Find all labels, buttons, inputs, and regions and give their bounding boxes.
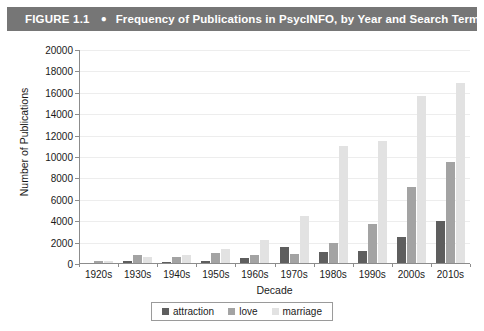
bar-group-1980s: [314, 50, 353, 264]
x-axis-title: Decade: [79, 284, 470, 296]
bar-attraction-1970s: [280, 247, 289, 264]
x-tick-mark: [235, 264, 236, 267]
legend-label: love: [239, 306, 257, 317]
x-tick-mark: [157, 264, 158, 267]
legend-label: marriage: [283, 306, 322, 317]
bar-love-2000s: [407, 187, 416, 264]
y-tick-label: 8000: [25, 173, 79, 184]
legend-swatch-icon: [228, 308, 235, 315]
x-tick-label-1940s: 1940s: [163, 269, 190, 280]
bar-marriage-1990s: [378, 141, 387, 264]
bar-marriage-2000s: [417, 96, 426, 264]
legend-swatch-icon: [162, 308, 169, 315]
x-tick-label-1950s: 1950s: [202, 269, 229, 280]
x-tick-label-2010s: 2010s: [437, 269, 464, 280]
x-tick-label-1960s: 1960s: [241, 269, 268, 280]
y-tick-label: 12000: [25, 130, 79, 141]
bar-marriage-1980s: [339, 146, 348, 264]
figure-title: Frequency of Publications in PsycINFO, b…: [116, 13, 480, 25]
x-tick-label-1970s: 1970s: [280, 269, 307, 280]
bar-marriage-1960s: [260, 240, 269, 264]
figure-header-bar: FIGURE 1.1 ● Frequency of Publications i…: [7, 7, 477, 31]
legend-item-attraction[interactable]: attraction: [162, 306, 214, 317]
x-tick-label-1990s: 1990s: [359, 269, 386, 280]
bar-group-1960s: [235, 50, 274, 264]
y-tick-label: 18000: [25, 66, 79, 77]
bar-group-1940s: [157, 50, 196, 264]
x-tick-label-1920s: 1920s: [85, 269, 112, 280]
chart-legend: attractionlovemarriage: [151, 302, 333, 321]
y-tick-label: 0: [25, 259, 79, 270]
x-tick-mark: [392, 264, 393, 267]
bar-love-2010s: [446, 162, 455, 264]
bar-love-1990s: [368, 224, 377, 264]
bullet-icon: ●: [101, 14, 107, 24]
x-tick-mark: [79, 264, 80, 267]
bar-marriage-1970s: [300, 216, 309, 264]
x-tick-label-1930s: 1930s: [124, 269, 151, 280]
legend-item-marriage[interactable]: marriage: [272, 306, 322, 317]
bar-marriage-1950s: [221, 249, 230, 264]
x-tick-label-2000s: 2000s: [398, 269, 425, 280]
legend-swatch-icon: [272, 308, 279, 315]
y-axis-line: [79, 50, 80, 264]
x-tick-label-1980s: 1980s: [320, 269, 347, 280]
x-tick-mark: [314, 264, 315, 267]
bar-love-1980s: [329, 243, 338, 264]
y-tick-label: 2000: [25, 237, 79, 248]
bar-group-1970s: [275, 50, 314, 264]
x-tick-mark: [431, 264, 432, 267]
y-tick-label: 6000: [25, 194, 79, 205]
legend-label: attraction: [173, 306, 214, 317]
x-tick-mark: [196, 264, 197, 267]
bar-group-1950s: [196, 50, 235, 264]
plot-area: 0200040006000800010000120001400016000180…: [79, 50, 470, 264]
y-tick-label: 16000: [25, 87, 79, 98]
x-tick-mark: [353, 264, 354, 267]
y-tick-label: 4000: [25, 216, 79, 227]
x-axis-line: [79, 263, 470, 264]
bar-attraction-2010s: [436, 221, 445, 264]
bar-group-1920s: [79, 50, 118, 264]
y-tick-label: 20000: [25, 45, 79, 56]
legend-item-love[interactable]: love: [228, 306, 257, 317]
bar-attraction-2000s: [397, 237, 406, 264]
x-tick-mark: [118, 264, 119, 267]
y-tick-label: 10000: [25, 152, 79, 163]
x-tick-mark: [275, 264, 276, 267]
chart-area: Number of Publications 02000400060008000…: [0, 36, 484, 331]
x-tick-mark: [470, 264, 471, 267]
bar-group-2010s: [431, 50, 470, 264]
bar-group-2000s: [392, 50, 431, 264]
bar-marriage-2010s: [456, 83, 465, 264]
figure-number: FIGURE 1.1: [25, 13, 90, 25]
bar-group-1990s: [353, 50, 392, 264]
bars-layer: [79, 50, 470, 264]
bar-group-1930s: [118, 50, 157, 264]
y-tick-label: 14000: [25, 109, 79, 120]
